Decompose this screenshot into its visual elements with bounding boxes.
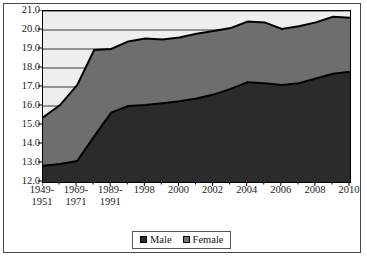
chart-legend: Male Female	[132, 231, 231, 249]
y-tick-marks	[38, 10, 43, 183]
legend-label-male: Male	[150, 234, 172, 245]
chart-plot-wrapper: 12.013.014.015.016.017.018.019.020.021.0…	[4, 4, 362, 254]
y-tick-label: 18.0	[6, 62, 40, 72]
y-tick-label: 15.0	[6, 119, 40, 129]
x-tick-label-line2: 1991	[80, 196, 140, 208]
area-chart-svg	[43, 11, 350, 182]
x-axis: 1949-19511969-19711989-19911998200020022…	[4, 184, 362, 220]
y-tick-label: 17.0	[6, 81, 40, 91]
legend-label-female: Female	[193, 234, 224, 245]
plot-area	[42, 10, 351, 183]
legend-item-male: Male	[140, 234, 172, 245]
legend-item-female: Female	[183, 234, 224, 245]
y-tick-label: 13.0	[6, 157, 40, 167]
y-tick-label: 19.0	[6, 43, 40, 53]
x-tick-marks	[42, 182, 351, 187]
y-tick-label: 14.0	[6, 138, 40, 148]
legend-swatch-female	[183, 236, 190, 243]
chart-frame: 12.013.014.015.016.017.018.019.020.021.0…	[3, 3, 361, 253]
y-tick-label: 16.0	[6, 100, 40, 110]
legend-swatch-male	[140, 236, 147, 243]
y-tick-label: 20.0	[6, 24, 40, 34]
y-tick-label: 21.0	[6, 5, 40, 15]
